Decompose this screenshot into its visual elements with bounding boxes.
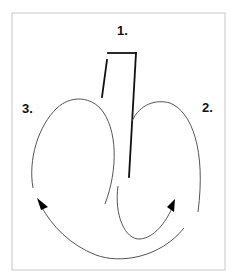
cycle-diagram: 1. 3. 2. [0,0,235,280]
label-step-1: 1. [117,23,128,38]
label-step-2: 2. [202,100,213,115]
label-step-3: 3. [22,101,33,116]
diagram-border [12,13,225,270]
